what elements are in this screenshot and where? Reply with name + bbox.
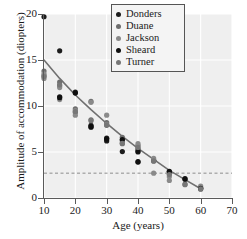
legend-item-jackson[interactable]: Jackson	[116, 32, 180, 44]
legend-item-turner[interactable]: Turner	[116, 56, 180, 68]
x-tick-label: 60	[189, 205, 213, 216]
data-point	[151, 171, 156, 176]
legend[interactable]: DondersDuaneJacksonSheardTurner	[111, 4, 185, 72]
data-point	[57, 48, 62, 53]
legend-item-label: Jackson	[126, 32, 159, 44]
data-point	[88, 124, 93, 129]
y-tick-mark	[38, 14, 43, 15]
data-point	[104, 122, 109, 127]
legend-marker-icon	[116, 60, 121, 65]
data-point	[182, 177, 187, 182]
y-axis-title: Amplitude of accommodation (diopters)	[14, 6, 26, 196]
x-tick-label: 50	[157, 205, 181, 216]
legend-item-sheard[interactable]: Sheard	[116, 44, 180, 56]
x-tick-label: 70	[220, 205, 244, 216]
legend-item-duane[interactable]: Duane	[116, 20, 180, 32]
legend-marker-icon	[116, 48, 121, 53]
y-tick-mark	[38, 106, 43, 107]
regression-curve	[44, 60, 201, 189]
y-tick-mark	[38, 198, 43, 199]
data-point	[120, 141, 125, 146]
data-point	[120, 149, 125, 154]
data-point	[135, 145, 140, 150]
legend-marker-icon	[116, 24, 121, 29]
data-point	[182, 182, 187, 187]
x-tick-label: 30	[95, 205, 119, 216]
data-point	[57, 82, 62, 87]
data-point	[167, 178, 172, 183]
y-tick-mark	[38, 60, 43, 61]
x-axis-title: Age (years)	[44, 219, 232, 231]
legend-item-label: Sheard	[126, 44, 155, 56]
legend-marker-icon	[116, 12, 121, 17]
x-tick-label: 10	[32, 205, 56, 216]
data-point	[135, 159, 140, 164]
legend-item-label: Duane	[126, 20, 153, 32]
data-point	[104, 137, 109, 142]
legend-item-donders[interactable]: Donders	[116, 8, 180, 20]
data-point	[57, 95, 62, 100]
legend-item-label: Donders	[126, 8, 162, 20]
data-point	[88, 118, 93, 123]
legend-marker-icon	[116, 36, 121, 41]
data-point	[88, 100, 93, 105]
data-point	[167, 172, 172, 177]
accommodation-amplitude-chart: 05101520 10203040506070 Amplitude of acc…	[0, 0, 247, 239]
data-point	[73, 109, 78, 114]
data-point	[73, 91, 78, 96]
data-point	[151, 158, 156, 163]
y-tick-mark	[38, 152, 43, 153]
data-point	[104, 113, 109, 118]
legend-item-label: Turner	[126, 56, 154, 68]
x-tick-label: 40	[126, 205, 150, 216]
y-axis-line	[43, 14, 44, 199]
data-point	[198, 186, 203, 191]
x-tick-label: 20	[63, 205, 87, 216]
